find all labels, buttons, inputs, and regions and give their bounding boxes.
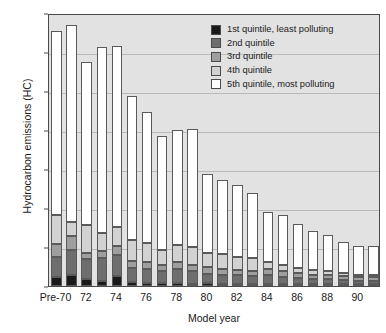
bar-segment — [338, 273, 349, 276]
bar-segment — [368, 284, 379, 286]
bar-segment — [112, 227, 123, 247]
bar-segment — [278, 215, 289, 265]
bar-segment — [202, 174, 213, 253]
bar-stack — [338, 13, 349, 286]
bar-segment — [353, 277, 364, 281]
legend-item: 2nd quintile — [211, 37, 335, 51]
bar-segment — [323, 279, 334, 284]
bar-segment — [278, 265, 289, 271]
bar-segment — [263, 212, 274, 262]
bar-segment — [323, 235, 334, 271]
bar-segment — [97, 233, 108, 252]
bar-segment — [368, 246, 379, 276]
bar-segment — [263, 275, 274, 284]
bar-stack — [187, 13, 198, 286]
bar-stack — [66, 13, 77, 286]
bar-segment — [278, 271, 289, 276]
bar-segment — [353, 281, 364, 285]
bar-segment — [293, 278, 304, 284]
x-axis-tick-label: 90 — [352, 292, 364, 303]
bar-segment — [172, 269, 183, 283]
bar-segment — [142, 112, 153, 243]
bar-segment — [66, 236, 77, 250]
legend-label: 1st quintile, least polluting — [227, 24, 333, 35]
bar-segment — [338, 284, 349, 286]
chart-legend: 1st quintile, least polluting2nd quintil… — [211, 23, 335, 91]
bar-segment — [247, 284, 258, 286]
bar-segment — [232, 284, 243, 286]
bar-segment — [353, 284, 364, 286]
bar-segment — [323, 271, 334, 275]
bar-segment — [368, 275, 379, 277]
bar-segment — [353, 275, 364, 277]
bar-segment — [368, 281, 379, 285]
bar-segment — [293, 268, 304, 273]
bar-segment — [187, 247, 198, 265]
bar-segment — [263, 284, 274, 286]
bar-segment — [232, 185, 243, 257]
bar-segment — [112, 246, 123, 255]
x-axis-tick-label: 80 — [201, 292, 213, 303]
x-axis-tick-label: 82 — [231, 292, 243, 303]
bar-segment — [157, 271, 168, 283]
bar-segment — [308, 284, 319, 286]
bar-segment — [293, 273, 304, 278]
bar-segment — [81, 62, 92, 225]
bar-segment — [187, 284, 198, 286]
bar-stack — [142, 13, 153, 286]
legend-item: 5th quintile, most polluting — [211, 77, 335, 91]
bar-stack — [368, 13, 379, 286]
bar-segment — [127, 240, 138, 261]
bar-segment — [142, 243, 153, 261]
bar-segment — [247, 193, 258, 258]
bar-segment — [157, 283, 168, 286]
y-axis-title: Hydrocarbon emissions (HC) — [21, 31, 33, 261]
bar-segment — [308, 270, 319, 275]
bar-segment — [323, 284, 334, 286]
bar-segment — [368, 277, 379, 281]
bar-segment — [81, 225, 92, 253]
legend-swatch — [211, 25, 221, 35]
bar-segment — [308, 275, 319, 279]
legend-swatch — [211, 38, 221, 48]
bar-segment — [142, 283, 153, 286]
bar-segment — [278, 284, 289, 286]
x-axis-tick-label: 84 — [261, 292, 273, 303]
bar-segment — [293, 224, 304, 269]
bar-segment — [202, 253, 213, 267]
bar-segment — [247, 258, 258, 271]
bar-segment — [112, 276, 123, 286]
bar-segment — [323, 275, 334, 279]
bar-segment — [97, 251, 108, 258]
bar-segment — [232, 275, 243, 283]
legend-swatch — [211, 79, 221, 89]
bar-segment — [157, 265, 168, 272]
bar-segment — [217, 254, 228, 270]
bar-segment — [142, 262, 153, 269]
x-axis-tick-label: 88 — [321, 292, 333, 303]
bar-segment — [353, 246, 364, 275]
bar-segment — [112, 46, 123, 227]
bar-segment — [187, 271, 198, 284]
bar-segment — [217, 275, 228, 284]
x-axis-tick-label: 74 — [110, 292, 122, 303]
x-axis-tick-label: 76 — [140, 292, 152, 303]
bar-segment — [263, 262, 274, 269]
bar-segment — [232, 257, 243, 270]
bar-stack — [112, 13, 123, 286]
bar-segment — [293, 284, 304, 286]
bar-stack — [172, 13, 183, 286]
bar-segment — [51, 257, 62, 277]
bar-segment — [51, 244, 62, 257]
bar-stack — [127, 13, 138, 286]
legend-swatch — [211, 66, 221, 76]
bar-segment — [172, 245, 183, 262]
bar-stack — [97, 13, 108, 286]
legend-item: 3rd quintile — [211, 50, 335, 64]
chart-figure: 0.00.10.20.30.40.50.60.7 Hydrocarbon emi… — [0, 0, 386, 333]
bar-segment — [157, 250, 168, 265]
bar-segment — [202, 274, 213, 284]
bar-segment — [263, 269, 274, 275]
bar-segment — [97, 47, 108, 233]
legend-item: 4th quintile — [211, 64, 335, 78]
